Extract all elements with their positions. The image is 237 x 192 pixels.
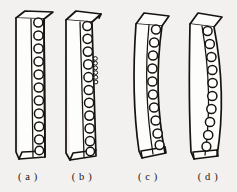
figure-panel: ( a ) [0,0,237,192]
hole-small [94,57,98,61]
hole [34,44,43,53]
hole-small [94,66,98,70]
hole-small [94,80,98,84]
hole-small [94,75,98,79]
panel-d-caption: ( d ) [198,171,219,183]
hole [34,109,43,118]
four-bar-specimen-diagram: ( a ) [0,0,237,192]
hole [34,70,43,79]
hole [85,137,94,146]
hole [205,117,214,126]
panel-a: ( a ) [16,11,53,183]
hole [86,147,94,155]
hole [34,18,43,27]
hole [155,141,164,150]
hole [85,111,94,120]
hole [204,130,213,139]
panel-d: ( d ) [189,13,222,183]
hole [205,39,214,48]
hole [148,90,157,99]
panel-a-caption: ( a ) [18,171,38,183]
panel-a-right-edge [44,19,45,157]
hole [153,129,162,138]
hole [207,52,216,61]
hole [84,60,93,69]
hole [207,104,216,113]
hole [84,85,93,94]
hole [83,22,92,31]
hole [148,51,157,60]
hole [35,146,44,155]
hole [85,98,94,107]
hole [152,25,161,34]
hole [35,122,44,131]
hole [83,47,92,56]
hole-small [94,71,98,75]
hole [203,27,212,36]
hole [208,65,217,74]
panel-c-caption: ( c ) [138,171,158,183]
hole [83,34,92,43]
hole [35,135,44,144]
hole [208,78,217,87]
hole [34,83,43,92]
hole [150,103,159,112]
panel-b-caption: ( b ) [72,171,93,183]
hole [34,96,43,105]
hole [208,91,217,100]
hole [202,142,211,151]
hole [34,31,43,40]
hole [85,124,94,133]
hole [150,38,159,47]
panel-c: ( c ) [134,13,169,183]
hole [148,64,157,73]
hole [84,73,93,82]
hole [34,57,43,66]
hole-small [94,61,98,65]
hole [151,116,160,125]
panel-b: ( b ) [66,11,101,183]
hole [148,77,157,86]
